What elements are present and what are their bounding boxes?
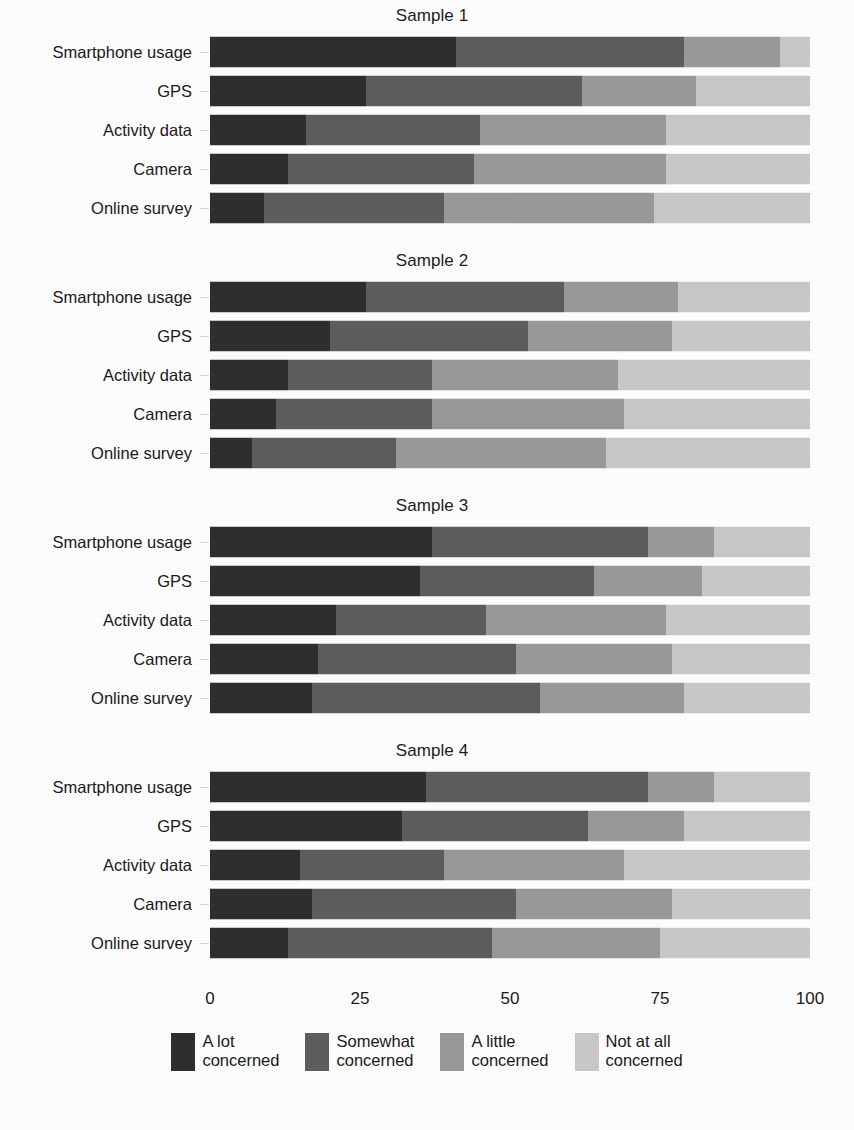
stacked-bar (210, 810, 810, 841)
panel-title: Sample 1 (0, 6, 854, 26)
legend-item[interactable]: Not at all concerned (575, 1032, 683, 1071)
legend-swatch-somewhat (305, 1033, 329, 1071)
bar-segment-not-at-all (666, 153, 810, 184)
legend-swatch-not-at-all (575, 1033, 599, 1071)
category-label: Online survey (0, 443, 196, 463)
bar-segment-a-lot (210, 320, 330, 351)
bar-segment-a-little (486, 604, 666, 635)
bar-segment-a-little (582, 75, 696, 106)
axis-tick-stub (200, 698, 209, 699)
stacked-bar (210, 927, 810, 958)
stacked-bar (210, 771, 810, 802)
axis-tick-stub (200, 297, 209, 298)
plot-area: Smartphone usageGPSActivity dataCameraOn… (0, 32, 854, 228)
legend-label: Somewhat concerned (336, 1032, 414, 1070)
category-label: Camera (0, 404, 196, 424)
category-label: GPS (0, 571, 196, 591)
bar-row: Smartphone usage (0, 767, 854, 806)
bar-segment-not-at-all (780, 36, 810, 67)
axis-tick-stub (200, 904, 209, 905)
bar-row: GPS (0, 71, 854, 110)
bar-segment-somewhat (456, 36, 684, 67)
bar-segment-not-at-all (684, 810, 810, 841)
category-label: Activity data (0, 855, 196, 875)
x-tick-label: 25 (351, 988, 370, 1010)
category-label: Smartphone usage (0, 42, 196, 62)
bar-row: GPS (0, 806, 854, 845)
bar-segment-a-lot (210, 682, 312, 713)
legend-label: A little concerned (471, 1032, 548, 1070)
bar-segment-somewhat (330, 320, 528, 351)
bar-segment-not-at-all (714, 526, 810, 557)
bar-row: Smartphone usage (0, 522, 854, 561)
legend-item[interactable]: Somewhat concerned (305, 1032, 414, 1071)
bar-segment-a-little (444, 192, 654, 223)
category-label: Activity data (0, 610, 196, 630)
bar-segment-not-at-all (672, 643, 810, 674)
plot-area: Smartphone usageGPSActivity dataCameraOn… (0, 277, 854, 473)
category-label: Smartphone usage (0, 777, 196, 797)
bar-segment-not-at-all (672, 888, 810, 919)
category-label: GPS (0, 326, 196, 346)
stacked-bar (210, 526, 810, 557)
bar-segment-a-little (564, 281, 678, 312)
bar-segment-somewhat (288, 359, 432, 390)
stacked-bar (210, 888, 810, 919)
panel-sample-3: Sample 3Smartphone usageGPSActivity data… (0, 496, 854, 718)
axis-tick-stub (200, 414, 209, 415)
bar-row: Activity data (0, 355, 854, 394)
bar-segment-a-little (480, 114, 666, 145)
bar-segment-somewhat (276, 398, 432, 429)
bar-segment-a-lot (210, 437, 252, 468)
category-label: Smartphone usage (0, 287, 196, 307)
stacked-bar (210, 849, 810, 880)
axis-tick-stub (200, 826, 209, 827)
bar-segment-somewhat (366, 281, 564, 312)
x-tick-label: 50 (501, 988, 520, 1010)
bar-segment-a-little (684, 36, 780, 67)
axis-tick-stub (200, 581, 209, 582)
category-label: Camera (0, 894, 196, 914)
bar-row: Activity data (0, 845, 854, 884)
x-tick-label: 75 (651, 988, 670, 1010)
stacked-bar (210, 153, 810, 184)
bar-segment-not-at-all (624, 398, 810, 429)
bar-row: Camera (0, 394, 854, 433)
stacked-bar (210, 192, 810, 223)
bar-segment-not-at-all (696, 75, 810, 106)
bar-row: Online survey (0, 678, 854, 717)
bar-row: GPS (0, 561, 854, 600)
bar-row: Smartphone usage (0, 32, 854, 71)
bar-segment-a-little (474, 153, 666, 184)
legend-label: Not at all concerned (606, 1032, 683, 1070)
bar-segment-somewhat (264, 192, 444, 223)
panel-title: Sample 2 (0, 251, 854, 271)
panel-title: Sample 3 (0, 496, 854, 516)
legend-item[interactable]: A little concerned (440, 1032, 548, 1071)
bar-segment-a-lot (210, 153, 288, 184)
bar-segment-not-at-all (654, 192, 810, 223)
bar-row: Camera (0, 639, 854, 678)
stacked-bar (210, 604, 810, 635)
bar-segment-a-lot (210, 810, 402, 841)
plot-area: Smartphone usageGPSActivity dataCameraOn… (0, 522, 854, 718)
plot-area: Smartphone usageGPSActivity dataCameraOn… (0, 767, 854, 963)
axis-tick-stub (200, 620, 209, 621)
category-label: GPS (0, 81, 196, 101)
axis-tick-stub (200, 336, 209, 337)
axis-tick-stub (200, 375, 209, 376)
axis-tick-stub (200, 453, 209, 454)
panel-sample-2: Sample 2Smartphone usageGPSActivity data… (0, 251, 854, 473)
axis-tick-stub (200, 659, 209, 660)
bar-segment-a-little (516, 888, 672, 919)
bar-segment-somewhat (402, 810, 588, 841)
bar-segment-somewhat (312, 682, 540, 713)
bar-row: Camera (0, 884, 854, 923)
legend-item[interactable]: A lot concerned (171, 1032, 279, 1071)
legend-label: A lot concerned (202, 1032, 279, 1070)
bar-segment-a-lot (210, 36, 456, 67)
bar-segment-a-lot (210, 114, 306, 145)
bar-segment-a-little (432, 359, 618, 390)
bar-segment-not-at-all (624, 849, 810, 880)
bar-segment-a-lot (210, 888, 312, 919)
